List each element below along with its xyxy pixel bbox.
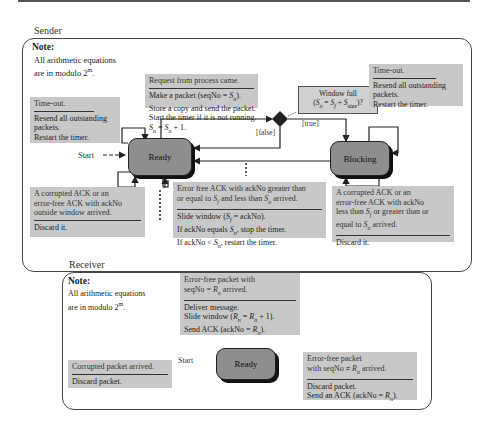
sender-corrupt-ack-ready-transition: A corrupted ACK or an error-free ACK wit… [30, 187, 145, 237]
sender-request-transition: Request from process came. Make a packet… [145, 74, 258, 108]
receiver-errorfree-nomatch-transition: Error-free packet with seqNo ≠ Rn arrive… [303, 352, 417, 400]
sender-start-label: Start [78, 150, 94, 160]
receiver-note-text: All arithmetic equations are in modulo 2… [68, 289, 145, 313]
receiver-errorfree-match-transition: Error-free packet with seqNo = Rn arrive… [180, 273, 300, 335]
receiver-corrupted-transition: Corrupted packet arrived. Discard packet… [68, 360, 172, 388]
receiver-start-label: Start [178, 356, 193, 365]
sender-corrupt-ack-blocking-transition: A corrupted ACK or an error-free ACK wit… [332, 186, 454, 242]
event-label: Request from process came. [149, 76, 254, 89]
receiver-note-title: Note: [68, 276, 90, 286]
decision-false-label: [false] [256, 128, 275, 137]
receiver-state-ready[interactable]: Ready [216, 348, 276, 380]
sender-state-ready[interactable]: Ready [128, 138, 192, 176]
sender-errorfree-ack-transition: Error free ACK with ackNo greater than o… [173, 182, 326, 238]
window-full-condition-note: Window full (Sn = Sf + Ssize)? [298, 86, 378, 114]
sender-timeout-blocking-transition: Time-out. Resend all outstanding packets… [369, 64, 463, 106]
decision-true-label: [true] [302, 119, 319, 128]
sender-state-blocking[interactable]: Blocking [330, 141, 390, 176]
sender-timeout-ready-transition: Time-out. Resend all outstanding packets… [30, 97, 120, 143]
receiver-title: Receiver [69, 259, 105, 270]
